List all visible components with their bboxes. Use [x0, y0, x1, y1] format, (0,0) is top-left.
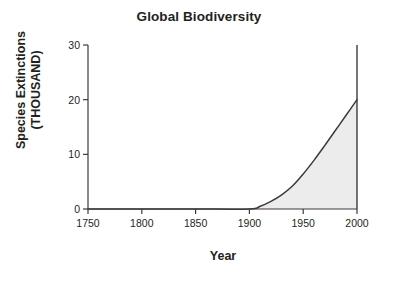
y-tick-label: 10	[54, 148, 80, 160]
x-axis-title: Year	[88, 249, 358, 263]
y-axis-ticks	[83, 45, 88, 209]
y-tick-label: 30	[54, 39, 80, 51]
chart-container: Global Biodiversity Species Extinctions …	[0, 0, 398, 283]
x-tick-label: 1850	[184, 217, 207, 229]
x-tick-label: 2000	[345, 217, 368, 229]
y-tick-label: 20	[54, 94, 80, 106]
x-tick-label: 1800	[130, 217, 153, 229]
x-tick-label: 1900	[238, 217, 261, 229]
x-tick-label: 1750	[76, 217, 99, 229]
x-tick-label: 1950	[292, 217, 315, 229]
y-tick-label: 0	[54, 203, 80, 215]
area-fill	[88, 100, 357, 210]
